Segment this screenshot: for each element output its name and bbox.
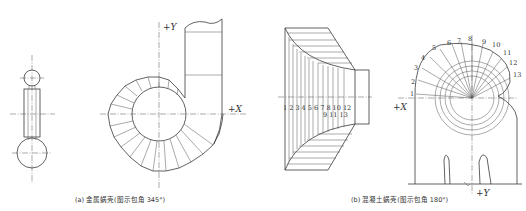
section-number: 1 (410, 90, 414, 98)
section-numbers-row2: 9 11 13 (323, 111, 348, 119)
figure-b-concrete-casing: 1 2 3 4 5 6 7 8 10 12 9 11 13 +X +Y (278, 28, 522, 204)
section-number: 3 (414, 64, 418, 72)
plan-view: +Y +X (100, 19, 246, 188)
section-number: 4 (421, 54, 425, 62)
spiral-casing-diagram: +Y +X (0, 0, 526, 211)
section-number: 5 (432, 44, 436, 52)
caption-figure-b: (b) 混凝土蜗壳(图示包角 180°) (351, 195, 448, 204)
figure-a-metal-casing: +Y +X (10, 19, 246, 204)
plan-view: +X +Y (393, 35, 522, 198)
section-number: 11 (503, 49, 511, 57)
section-number: 7 (457, 37, 461, 45)
axis-y-label: +Y (476, 188, 491, 198)
side-section-view (10, 55, 55, 183)
section-number: 9 (482, 38, 486, 46)
section-number: 2 (411, 78, 415, 86)
caption-figure-a: (a) 金属蜗壳(图示包角 345°) (75, 195, 165, 204)
section-number: 10 (492, 41, 500, 49)
section-number: 13 (513, 71, 521, 79)
axis-x-label: +X (393, 102, 408, 112)
side-section-view: 1 2 3 4 5 6 7 8 10 12 9 11 13 (278, 28, 372, 170)
axis-x-label: +X (228, 104, 243, 114)
axis-y-label: +Y (163, 22, 178, 32)
section-number: 8 (468, 35, 472, 43)
section-number: 12 (509, 59, 517, 67)
section-number: 6 (447, 39, 451, 47)
